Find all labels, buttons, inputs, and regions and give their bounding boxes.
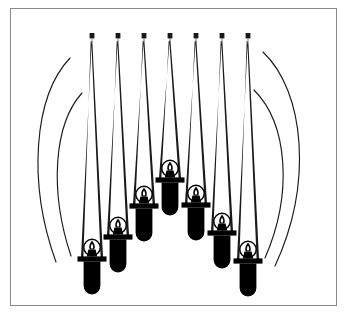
glow-arc-group — [38, 52, 299, 266]
cone-cap-5 — [194, 33, 199, 38]
cone-candle-3 — [133, 33, 155, 204]
cone-group — [81, 33, 259, 259]
cone-cap-2 — [116, 33, 121, 38]
cone-candle-1 — [81, 33, 103, 257]
arc-right-inner — [254, 90, 283, 258]
cone-cap-6 — [220, 33, 225, 38]
cone-candle-6 — [211, 33, 233, 231]
cone-candle-7 — [237, 33, 259, 259]
cone-candle-2 — [107, 33, 129, 235]
cone-cap-7 — [246, 33, 251, 38]
artwork-canvas — [0, 0, 347, 321]
cone-cap-3 — [142, 33, 147, 38]
arc-left-outer — [38, 58, 70, 262]
illustration-stage — [0, 0, 347, 321]
candle-group — [78, 160, 263, 296]
cone-candle-5 — [185, 33, 207, 203]
arc-left-inner — [57, 93, 82, 256]
arc-right-outer — [263, 52, 299, 266]
candle-arch-svg — [0, 0, 347, 321]
cone-candle-4 — [159, 33, 181, 178]
cone-cap-1 — [90, 33, 95, 38]
cone-cap-4 — [168, 33, 173, 38]
